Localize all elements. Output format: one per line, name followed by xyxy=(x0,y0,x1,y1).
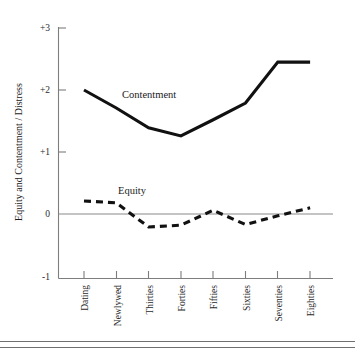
y-tick-label-2: +2 xyxy=(40,85,50,95)
y-tick-label-0: 0 xyxy=(45,209,50,219)
x-category-label-thirties: Thirties xyxy=(145,285,155,315)
chart-figure: Equity and Contentment / Distress +3 +2 … xyxy=(0,0,355,349)
page-divider-upper xyxy=(0,341,355,342)
y-tick-label-1: +1 xyxy=(40,147,50,157)
series-label-equity: Equity xyxy=(118,185,147,196)
x-category-label-sixties: Sixties xyxy=(242,285,252,311)
series-label-contentment: Contentment xyxy=(122,89,176,100)
y-tick-label-neg1: -1 xyxy=(42,272,50,282)
x-category-label-dating: Dating xyxy=(80,285,90,311)
x-category-label-newlywed: Newlywed xyxy=(113,285,123,326)
x-category-label-fifties: Fifties xyxy=(209,285,219,310)
x-category-label-forties: Forties xyxy=(177,285,187,312)
y-axis-title: Equity and Contentment / Distress xyxy=(13,83,24,221)
line-chart-canvas: Equity and Contentment / Distress +3 +2 … xyxy=(0,0,355,349)
page-divider-lower xyxy=(0,347,355,348)
x-category-label-seventies: Seventies xyxy=(274,285,284,322)
series-line-contentment xyxy=(84,62,310,136)
y-tick-label-3: +3 xyxy=(40,23,50,33)
x-category-label-eighties: Eighties xyxy=(306,285,316,316)
